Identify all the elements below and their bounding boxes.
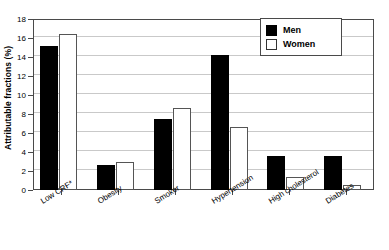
y-axis-tick-label: 10 [2, 91, 26, 100]
bar-women [173, 108, 191, 190]
legend-label: Men [283, 25, 301, 35]
y-axis-tick-label: 12 [2, 72, 26, 81]
y-axis-tick-label: 14 [2, 53, 26, 62]
bar-women [59, 34, 77, 190]
bar-group [90, 19, 147, 190]
bar-group [33, 19, 90, 190]
legend-item: Men [266, 23, 336, 37]
bar-men [211, 55, 229, 190]
bar-men [267, 156, 285, 190]
bar-group [147, 19, 204, 190]
bar-men [97, 165, 115, 190]
legend-swatch-women [266, 39, 277, 50]
y-axis-tick-label: 0 [2, 186, 26, 195]
y-axis-tick [28, 190, 33, 191]
y-axis-tick-label: 18 [2, 15, 26, 24]
legend-label: Women [283, 39, 315, 49]
bar-group [204, 19, 261, 190]
legend-item: Women [266, 37, 336, 51]
y-axis-tick-label: 4 [2, 148, 26, 157]
bar-men [324, 156, 342, 190]
y-axis-tick-label: 6 [2, 129, 26, 138]
y-axis-tick-label: 8 [2, 110, 26, 119]
chart-legend: MenWomen [260, 18, 342, 56]
legend-swatch-men [266, 25, 277, 36]
bar-chart: Attributable fractions (%) 0246810121416… [0, 0, 389, 250]
bar-men [154, 119, 172, 190]
y-axis-tick-label: 2 [2, 167, 26, 176]
bar-men [40, 46, 58, 190]
y-axis-tick-label: 16 [2, 34, 26, 43]
